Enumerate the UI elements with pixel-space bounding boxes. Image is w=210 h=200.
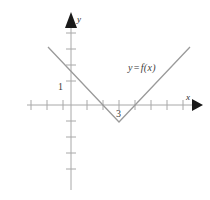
function-label-equals: =	[133, 62, 141, 73]
x-tick-label-3: 3	[116, 109, 121, 119]
figure-canvas: y x 1 3 y=f(x)	[0, 0, 210, 200]
y-tick-label-1: 1	[58, 82, 63, 92]
function-label-close-paren: )	[152, 62, 156, 73]
y-axis-label: y	[77, 15, 81, 24]
x-axis-arrow-icon	[192, 99, 203, 111]
x-axis-label: x	[186, 93, 190, 102]
graph-plot	[0, 0, 210, 200]
function-equation-label: y=f(x)	[128, 63, 156, 73]
y-axis-arrow-icon	[65, 12, 77, 28]
